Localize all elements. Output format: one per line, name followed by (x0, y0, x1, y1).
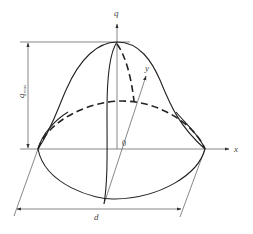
ellipse-right-lobe (176, 112, 205, 149)
profile-xq-left (38, 42, 117, 149)
origin-label: 0 (122, 139, 126, 148)
profile-xq-right (117, 42, 205, 149)
profile-yq-front (104, 42, 117, 204)
y-axis-label: y (144, 63, 149, 73)
q-max-label: q max (16, 84, 27, 98)
base-ellipse-front (38, 149, 205, 199)
x-axis-label: x (233, 144, 238, 154)
ellipse-left-lobe (38, 112, 68, 149)
diameter-label: d (94, 212, 99, 222)
profile-yq-back (117, 44, 134, 101)
svg-text:max: max (22, 84, 27, 93)
q-axis-label: q (114, 8, 119, 18)
pressure-distribution-diagram: q x y 0 d q max (0, 0, 253, 234)
diameter-extension-left (14, 149, 38, 216)
